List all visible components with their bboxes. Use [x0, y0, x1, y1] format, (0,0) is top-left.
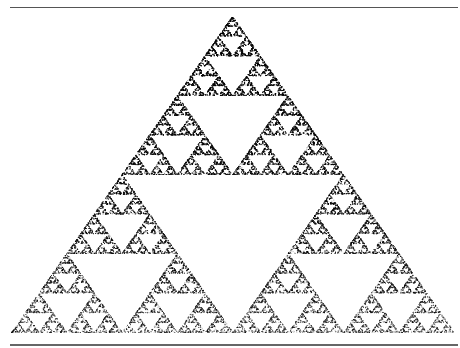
bottom-rule [10, 344, 458, 346]
sierpinski-triangle [0, 0, 460, 348]
